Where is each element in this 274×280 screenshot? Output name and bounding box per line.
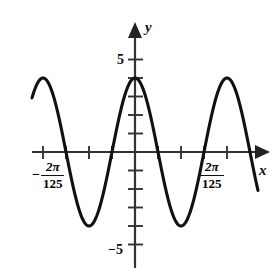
x-axis-arrowhead — [255, 145, 270, 159]
x-tick-label-left-fraction: − 2π 125 — [32, 160, 64, 191]
y-tick-label-negative-5: −5 — [108, 243, 123, 257]
fraction-left: 2π 125 — [41, 160, 65, 191]
fraction-right: 2π 125 — [200, 160, 224, 191]
y-axis-arrowhead — [128, 22, 142, 38]
x-axis-label: x — [259, 163, 267, 178]
fraction-right-numerator: 2π — [203, 160, 221, 175]
fraction-right-denominator: 125 — [200, 176, 224, 191]
graph-figure: y x 5 −5 − 2π 125 2π 125 — [0, 0, 274, 280]
fraction-left-denominator: 125 — [41, 176, 65, 191]
fraction-left-numerator: 2π — [44, 160, 62, 175]
minus-sign: − — [32, 167, 40, 183]
y-tick-label-5: 5 — [117, 53, 124, 67]
y-axis-label: y — [145, 20, 152, 35]
x-tick-label-right-fraction: 2π 125 — [200, 160, 224, 191]
plot-canvas — [0, 0, 274, 280]
